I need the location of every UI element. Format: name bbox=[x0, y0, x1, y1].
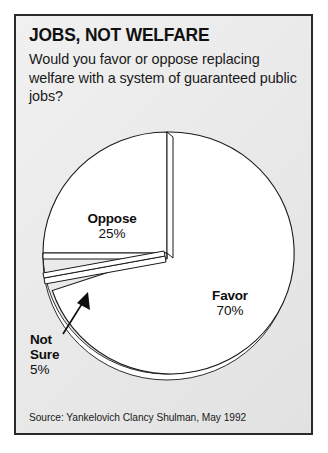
survey-question: Would you favor or oppose replacing welf… bbox=[29, 50, 298, 105]
source-attribution: Source: Yankelovich Clancy Shulman, May … bbox=[29, 412, 298, 423]
pie-slice-vertical-wall bbox=[167, 132, 173, 258]
infographic-page: JOBS, NOT WELFARE Would you favor or opp… bbox=[0, 0, 328, 453]
pie-slice-oppose bbox=[43, 132, 167, 253]
page-title: JOBS, NOT WELFARE bbox=[29, 25, 282, 44]
panel-header: JOBS, NOT WELFARE Would you favor or opp… bbox=[16, 16, 311, 106]
chart-panel: JOBS, NOT WELFARE Would you favor or opp… bbox=[14, 14, 313, 435]
